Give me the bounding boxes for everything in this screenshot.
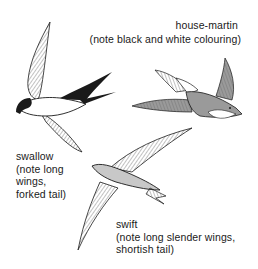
swallow-note-line: forked tail) [16,188,66,201]
swallow-note-line: (note long [16,163,66,176]
house-martin-note: (note black and white colouring) [90,33,241,46]
swift-note-line: shortish tail) [116,243,235,256]
swift-note-line: (note long slender wings, [116,231,235,244]
house-martin-illustration [132,58,242,118]
swallow-note-line: wings, [16,175,66,188]
swallow-label: swallow (note long wings, forked tail) [16,150,66,200]
house-martin-name: house-martin [176,19,238,32]
swift-label: swift (note long slender wings, shortish… [116,218,235,256]
house-martin-note-line: (note black and white colouring) [90,33,241,46]
house-martin-label: house-martin [176,19,238,32]
swift-name: swift [116,218,235,231]
swallow-name: swallow [16,150,66,163]
bird-identification-figure: house-martin (note black and white colou… [0,0,258,269]
